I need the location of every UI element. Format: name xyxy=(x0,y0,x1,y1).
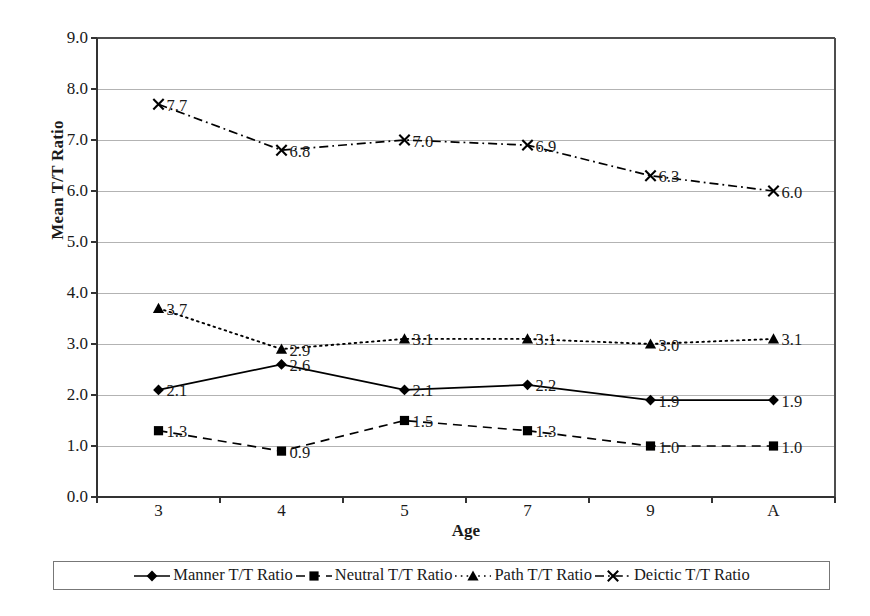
data-point-marker-cross xyxy=(522,140,532,150)
triangle-icon xyxy=(768,333,779,343)
data-point-marker-square xyxy=(154,426,163,435)
data-label: 7.0 xyxy=(413,132,434,151)
legend-label: Neutral T/T Ratio xyxy=(335,567,454,584)
data-label: 2.1 xyxy=(167,381,188,400)
gridlines xyxy=(97,38,835,446)
data-label: 1.3 xyxy=(536,422,557,441)
legend-entry[interactable]: Manner T/T Ratio xyxy=(132,567,293,584)
data-point-marker-diamond xyxy=(276,359,287,370)
y-axis-ticks xyxy=(91,38,97,497)
diamond-icon xyxy=(153,385,164,396)
data-label: 3.0 xyxy=(659,336,680,355)
legend-entry[interactable]: Deictic T/T Ratio xyxy=(593,567,751,584)
square-icon xyxy=(646,441,655,450)
diamond-icon xyxy=(276,359,287,370)
data-point-marker-diamond xyxy=(645,395,656,406)
series-line xyxy=(159,421,774,452)
legend-key-diamond-icon xyxy=(132,569,172,583)
legend-label: Manner T/T Ratio xyxy=(173,567,293,584)
data-label: 1.9 xyxy=(659,392,680,411)
legend-label: Deictic T/T Ratio xyxy=(634,567,751,584)
data-label: 1.5 xyxy=(413,412,434,431)
x-axis-title: Age xyxy=(97,521,835,541)
data-label: 6.8 xyxy=(290,142,311,161)
data-label: 1.3 xyxy=(167,422,188,441)
legend-entry[interactable]: Neutral T/T Ratio xyxy=(294,567,454,584)
chart-legend: Manner T/T RatioNeutral T/T RatioPath T/… xyxy=(53,561,830,590)
plot-border xyxy=(97,38,835,497)
data-point-marker-diamond xyxy=(522,379,533,390)
data-label: 1.9 xyxy=(782,392,803,411)
series-line xyxy=(159,308,774,349)
data-point-marker-triangle xyxy=(153,303,164,313)
data-label: 2.1 xyxy=(413,381,434,400)
data-point-marker-square xyxy=(769,441,778,450)
data-point-marker-square xyxy=(277,447,286,456)
series-line xyxy=(159,104,774,191)
legend-key-square-icon xyxy=(294,569,334,583)
square-icon xyxy=(277,447,286,456)
data-point-marker-triangle xyxy=(468,570,479,580)
data-point-marker-square xyxy=(646,441,655,450)
square-icon xyxy=(769,441,778,450)
square-icon xyxy=(400,416,409,425)
legend-key-cross-icon xyxy=(593,569,633,583)
triangle-icon xyxy=(468,570,479,580)
series-manner-t-t-ratio: 2.12.62.12.21.91.9 xyxy=(153,356,802,411)
data-point-marker-square xyxy=(400,416,409,425)
data-point-marker-diamond xyxy=(147,570,158,581)
data-label: 2.2 xyxy=(536,376,557,395)
data-label: 3.1 xyxy=(536,330,557,349)
diamond-icon xyxy=(768,395,779,406)
square-icon xyxy=(309,571,318,580)
triangle-icon xyxy=(153,303,164,313)
legend-entry[interactable]: Path T/T Ratio xyxy=(453,567,592,584)
data-point-marker-diamond xyxy=(768,395,779,406)
legend-key-triangle-icon xyxy=(453,569,493,583)
data-point-marker-square xyxy=(523,426,532,435)
chart-figure: Mean T/T Ratio 9.08.07.06.05.04.03.02.01… xyxy=(0,0,870,616)
data-label: 1.0 xyxy=(659,438,680,457)
data-point-marker-square xyxy=(309,571,318,580)
data-label: 2.9 xyxy=(290,341,311,360)
data-label: 6.0 xyxy=(782,183,803,202)
diamond-icon xyxy=(645,395,656,406)
data-point-marker-triangle xyxy=(768,333,779,343)
data-point-marker-cross xyxy=(153,99,163,109)
data-label: 0.9 xyxy=(290,443,311,462)
square-icon xyxy=(523,426,532,435)
data-label: 7.7 xyxy=(167,96,188,115)
data-label: 3.1 xyxy=(413,330,434,349)
data-point-marker-diamond xyxy=(399,385,410,396)
data-label: 3.7 xyxy=(167,300,188,319)
data-point-marker-diamond xyxy=(153,385,164,396)
series-neutral-t-t-ratio: 1.30.91.51.31.01.0 xyxy=(154,412,802,462)
data-label: 1.0 xyxy=(782,438,803,457)
series-deictic-t-t-ratio: 7.76.87.06.96.36.0 xyxy=(153,96,802,202)
data-label: 6.3 xyxy=(659,167,680,186)
diamond-icon xyxy=(399,385,410,396)
legend-label: Path T/T Ratio xyxy=(494,567,592,584)
square-icon xyxy=(154,426,163,435)
data-label: 3.1 xyxy=(782,330,803,349)
diamond-icon xyxy=(522,379,533,390)
data-label: 6.9 xyxy=(536,137,557,156)
series-path-t-t-ratio: 3.72.93.13.13.03.1 xyxy=(153,300,802,360)
diamond-icon xyxy=(147,570,158,581)
